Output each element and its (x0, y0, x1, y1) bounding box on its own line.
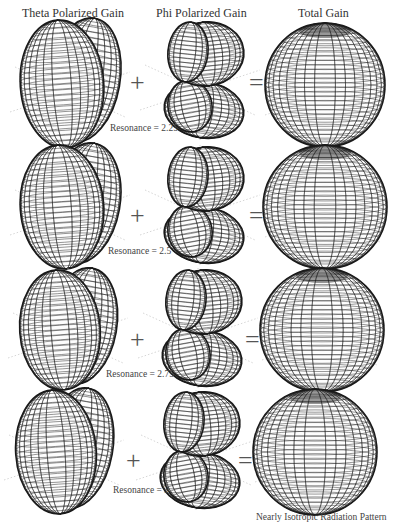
equals-operator-row-2: = (249, 203, 264, 229)
total-pole-cap (299, 24, 351, 38)
total-pole-cap (299, 146, 351, 160)
radiation-pattern-figure (0, 0, 394, 529)
equals-operator-row-4: = (238, 448, 253, 474)
total-pattern-row-3 (260, 268, 384, 392)
plus-operator-row-1: + (130, 70, 145, 96)
equals-operator-row-1: = (249, 70, 264, 96)
plus-operator-row-3: + (130, 327, 145, 353)
resonance-label-row-2: Resonance = 2.5 (108, 246, 171, 256)
theta-pattern-row-4 (11, 382, 122, 517)
plus-operator-row-2: + (130, 203, 145, 229)
total-pattern-row-2 (263, 145, 387, 269)
phi-pattern-row-4 (156, 388, 243, 513)
resonance-label-row-3: Resonance = 2.75 (106, 369, 174, 379)
phi-pattern-row-2 (160, 143, 247, 268)
equals-operator-row-3: = (245, 327, 260, 353)
total-pole-cap (296, 269, 348, 283)
total-pattern-row-1 (265, 23, 385, 147)
plus-operator-row-4: + (126, 448, 141, 474)
resonance-label-row-1: Resonance = 2.25 (110, 123, 178, 133)
footer-caption: Nearly Isotropic Radiation Pattern (256, 512, 387, 522)
total-pole-cap (289, 390, 341, 404)
total-pattern-row-4 (253, 389, 377, 515)
resonance-label-row-4: Resonance = 3 (113, 485, 169, 495)
